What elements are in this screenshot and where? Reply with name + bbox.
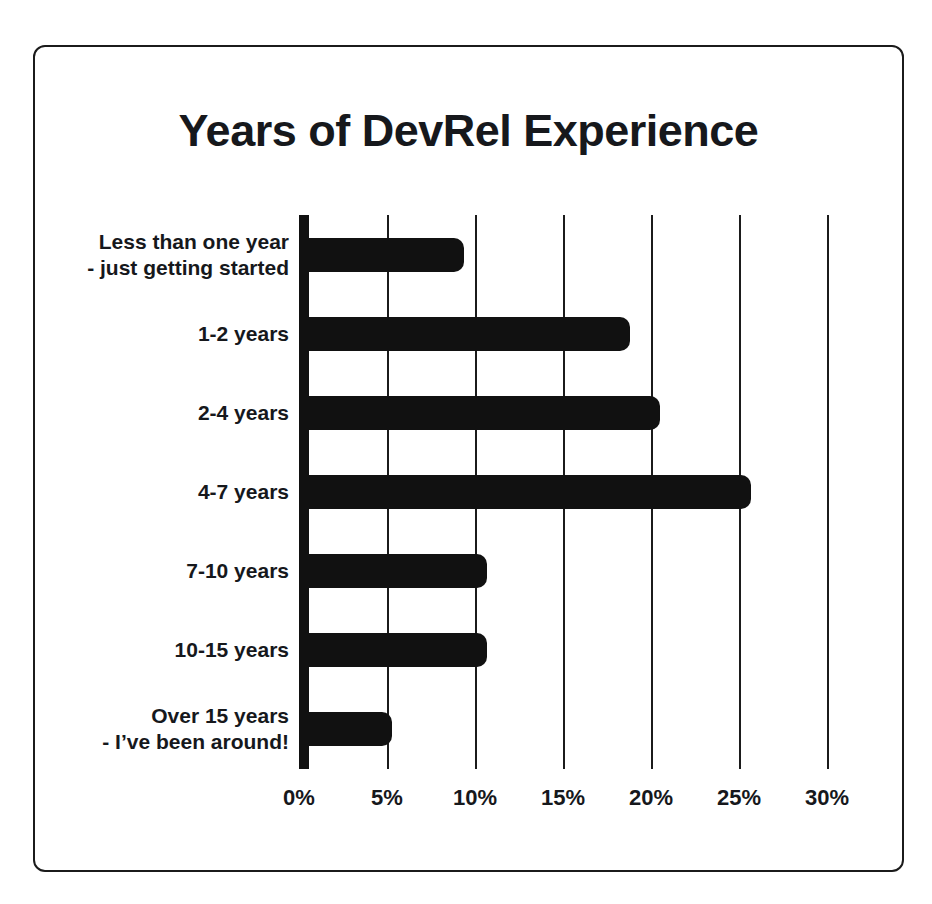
x-tick-label: 15%: [541, 785, 585, 811]
category-label: 4-7 years: [39, 479, 289, 505]
chart-card: Years of DevRel Experience Less than one…: [33, 45, 904, 872]
chart-page: Years of DevRel Experience Less than one…: [0, 0, 932, 904]
y-axis-category-labels: Less than one year - just getting starte…: [45, 215, 289, 769]
category-label: Over 15 years - I’ve been around!: [39, 703, 289, 755]
category-label: 1-2 years: [39, 321, 289, 347]
x-tick-label: 0%: [283, 785, 315, 811]
bar[interactable]: [299, 633, 487, 667]
category-label: 7-10 years: [39, 558, 289, 584]
bar[interactable]: [299, 396, 660, 430]
category-label: 2-4 years: [39, 400, 289, 426]
chart-title: Years of DevRel Experience: [35, 105, 902, 157]
x-tick-label: 25%: [717, 785, 761, 811]
bar[interactable]: [299, 475, 751, 509]
bar[interactable]: [299, 712, 392, 746]
bar[interactable]: [299, 317, 630, 351]
y-axis-line: [299, 215, 309, 769]
bar[interactable]: [299, 554, 487, 588]
gridline-30pct: [827, 215, 829, 769]
x-tick-label: 10%: [453, 785, 497, 811]
x-tick-label: 20%: [629, 785, 673, 811]
category-label: 10-15 years: [39, 637, 289, 663]
x-tick-label: 5%: [371, 785, 403, 811]
x-tick-label: 30%: [805, 785, 849, 811]
plot-area: [299, 215, 827, 769]
bar[interactable]: [299, 238, 464, 272]
x-axis-tick-labels: 0%5%10%15%20%25%30%: [299, 785, 827, 825]
category-label: Less than one year - just getting starte…: [39, 229, 289, 281]
